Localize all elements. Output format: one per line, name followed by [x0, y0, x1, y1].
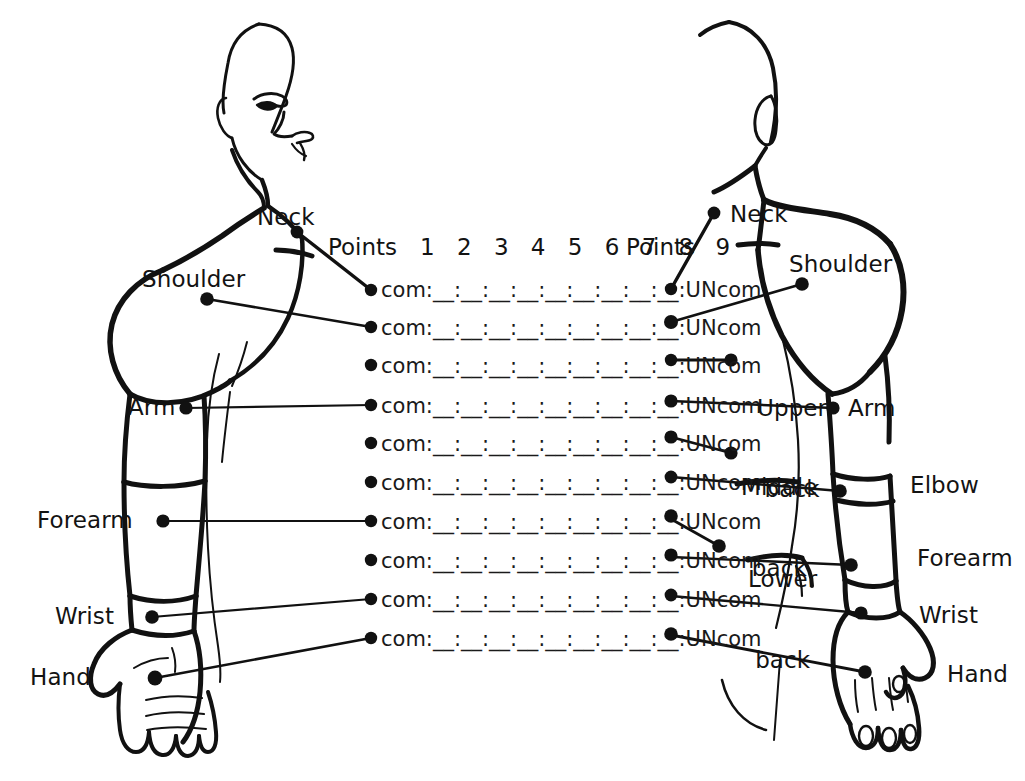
rating-row[interactable]: com:__:__:__:__:__:__:__:__:__:UNcom [381, 316, 762, 340]
label-line-1: Lower [748, 566, 817, 593]
dot-back-shoulder [795, 277, 809, 291]
label-line-2: back [748, 647, 817, 674]
label-back-shoulder: Shoulder [789, 252, 892, 277]
label-front-forearm: Forearm [37, 508, 133, 533]
body-diagram-artwork [0, 0, 1025, 781]
front-figure-outline [91, 24, 314, 756]
row-left-dots [365, 284, 377, 644]
rating-row[interactable]: com:__:__:__:__:__:__:__:__:__:UNcom [381, 471, 762, 495]
label-back-elbow: Elbow [910, 473, 979, 498]
label-line-1: Middle [741, 474, 818, 501]
points-header-left: Points [328, 234, 397, 260]
dot-front-arm [179, 401, 192, 414]
label-back-neck: Neck [730, 202, 788, 227]
label-front-wrist: Wrist [55, 604, 114, 629]
rating-row[interactable]: com:__:__:__:__:__:__:__:__:__:UNcom [381, 588, 762, 612]
dot-back-forearm [844, 558, 858, 572]
label-front-neck: Neck [257, 205, 315, 230]
dot-front-forearm [156, 514, 169, 527]
dot-back-elbow [833, 484, 847, 498]
dot-back-wrist [854, 606, 867, 619]
label-front-arm: Arm [128, 395, 176, 420]
label-front-hand: Hand [30, 665, 91, 690]
dot-front-shoulder [200, 292, 214, 306]
label-back-wrist: Wrist [919, 603, 978, 628]
dot-front-wrist [145, 610, 159, 624]
diagram-canvas: Points 1 2 3 4 5 6 7 8 9 Points com:__:_… [0, 0, 1025, 781]
label-back-arm: Arm [848, 396, 896, 421]
dot-back-hand [858, 665, 872, 679]
rating-row[interactable]: com:__:__:__:__:__:__:__:__:__:UNcom [381, 278, 762, 302]
points-header-right: Points [626, 234, 695, 260]
rating-row[interactable]: com:__:__:__:__:__:__:__:__:__:UNcom [381, 627, 762, 651]
rating-row[interactable]: com:__:__:__:__:__:__:__:__:__:UNcom [381, 549, 762, 573]
label-back-lower-back: Lower back [748, 512, 817, 728]
label-line-1: Upper [757, 395, 827, 422]
dot-front-hand [148, 671, 163, 686]
dot-back-neck [708, 207, 721, 220]
rating-row[interactable]: com:__:__:__:__:__:__:__:__:__:UNcom [381, 354, 762, 378]
rating-row[interactable]: com:__:__:__:__:__:__:__:__:__:UNcom [381, 394, 762, 418]
label-back-forearm: Forearm [917, 546, 1013, 571]
label-back-hand: Hand [947, 662, 1008, 687]
rating-row[interactable]: com:__:__:__:__:__:__:__:__:__:UNcom [381, 510, 762, 534]
rating-row[interactable]: com:__:__:__:__:__:__:__:__:__:UNcom [381, 432, 762, 456]
dot-back-arm [826, 401, 839, 414]
label-front-shoulder: Shoulder [142, 267, 245, 292]
